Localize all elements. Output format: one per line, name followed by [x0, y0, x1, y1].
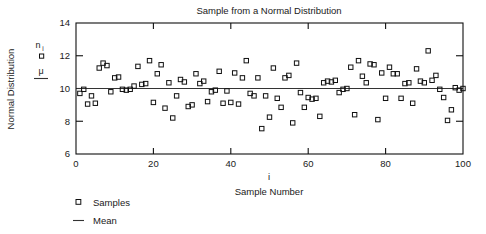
inline-sample-symbol: n [35, 40, 40, 50]
y-tick-label: 14 [59, 17, 70, 28]
y-tick-label: 6 [65, 148, 70, 159]
y-axis-label: Normal Distribution [5, 49, 16, 130]
chart-background [0, 0, 486, 234]
y-tick-label: 10 [59, 83, 70, 94]
legend-samples-label: Samples [93, 197, 130, 208]
chart-figure: Sample from a Normal Distribution Normal… [0, 0, 486, 234]
inline-mean-symbol: μ [38, 66, 43, 76]
chart-title: Sample from a Normal Distribution [196, 5, 341, 16]
x-tick-label: 20 [148, 158, 159, 169]
scatter-chart: Sample from a Normal Distribution Normal… [0, 0, 486, 234]
inline-sample-subscript: i [42, 45, 43, 52]
y-tick-label: 12 [59, 50, 70, 61]
x-tick-label: 80 [380, 158, 391, 169]
x-axis-symbol: i [268, 171, 270, 182]
x-tick-label: 100 [455, 158, 471, 169]
x-tick-label: 40 [226, 158, 237, 169]
x-tick-label: 0 [73, 158, 78, 169]
y-tick-label: 8 [65, 116, 70, 127]
x-axis-label: Sample Number [235, 186, 304, 197]
x-tick-label: 60 [303, 158, 314, 169]
legend-mean-label: Mean [93, 215, 117, 226]
